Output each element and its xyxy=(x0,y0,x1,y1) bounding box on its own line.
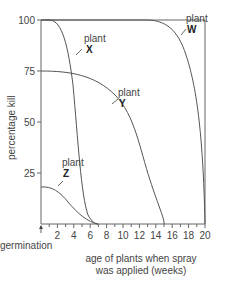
svg-text:12: 12 xyxy=(134,230,146,241)
plant-z-letter: Z xyxy=(63,168,69,179)
svg-text:14: 14 xyxy=(150,230,162,241)
curve-plant-w xyxy=(41,20,205,224)
curve-plant-z xyxy=(41,187,98,224)
plant-y-word: plant xyxy=(118,87,140,98)
leader-y xyxy=(112,99,118,104)
plant-z-word: plant xyxy=(62,157,84,168)
plant-x-word: plant xyxy=(84,33,106,44)
germination-arrow-icon xyxy=(39,225,43,233)
x-axis-title-line1: age of plants when spray xyxy=(85,253,196,264)
x-axis-title-line2: was applied (weeks) xyxy=(95,265,187,276)
plant-x-letter: X xyxy=(86,44,93,55)
y-tick-50: 50 xyxy=(24,117,36,128)
leader-z xyxy=(58,181,63,186)
svg-text:16: 16 xyxy=(167,230,179,241)
plant-w-word: plant xyxy=(186,13,208,24)
chart: 100 75 50 25 2 4 6 8 10 12 14 16 18 20 g… xyxy=(0,0,230,289)
y-tick-100: 100 xyxy=(18,15,35,26)
svg-text:8: 8 xyxy=(104,230,110,241)
svg-text:18: 18 xyxy=(183,230,195,241)
curve-plant-y xyxy=(41,71,164,224)
leader-w xyxy=(181,29,186,35)
x-tick-labels: 2 4 6 8 10 12 14 16 18 20 xyxy=(55,230,211,241)
y-tick-25: 25 xyxy=(24,168,36,179)
y-axis-title: percentage kill xyxy=(6,96,17,160)
svg-text:4: 4 xyxy=(71,230,77,241)
svg-text:20: 20 xyxy=(199,230,211,241)
plant-w-letter: W xyxy=(187,24,197,35)
svg-text:6: 6 xyxy=(87,230,93,241)
y-tick-75: 75 xyxy=(24,66,36,77)
svg-text:2: 2 xyxy=(55,230,61,241)
svg-text:10: 10 xyxy=(117,230,129,241)
y-ticks: 100 75 50 25 xyxy=(18,15,41,179)
leader-x xyxy=(76,49,82,55)
plant-y-letter: Y xyxy=(119,98,126,109)
x-ticks xyxy=(49,224,205,228)
germination-label: germination xyxy=(0,240,52,251)
